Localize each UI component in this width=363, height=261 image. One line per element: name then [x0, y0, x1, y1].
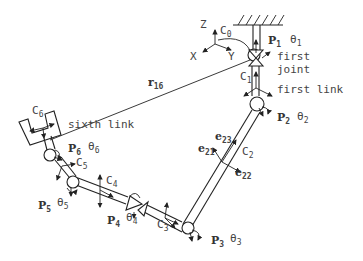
- theta5-label: θ5: [57, 196, 69, 211]
- axis-z-label: Z: [200, 18, 207, 31]
- c5-label: C5: [76, 156, 88, 171]
- e23-label: e23: [215, 130, 232, 145]
- c0-label: C0: [220, 24, 232, 39]
- r16-label: r16: [148, 76, 164, 91]
- c1-label: C1: [240, 70, 252, 85]
- sixth-joint: [44, 149, 62, 161]
- c2-label: C2: [242, 145, 254, 160]
- base-column: [253, 25, 260, 52]
- theta6-label: θ6: [88, 140, 100, 155]
- p1-label: P1: [268, 34, 281, 49]
- robot-arm-diagram: Z X Y C0 P1 θ1 first joint C1 first link…: [0, 0, 363, 261]
- labels: Z X Y C0 P1 θ1 first joint C1 first link…: [32, 18, 344, 249]
- theta4-label: θ4: [126, 211, 138, 226]
- sixth-link-label: sixth link: [68, 118, 135, 131]
- c6-label: C6: [32, 104, 44, 119]
- second-link: [183, 110, 260, 226]
- theta1-label: θ1: [290, 33, 302, 48]
- third-joint: [182, 222, 199, 241]
- p4-label: P4: [107, 214, 120, 229]
- theta2-label: θ2: [297, 110, 309, 125]
- p6-label: P6: [68, 142, 81, 157]
- ground-base: [233, 15, 284, 25]
- first-joint-label-1: first: [277, 50, 310, 63]
- theta3-label: θ3: [230, 232, 242, 247]
- e21-label: e21: [198, 142, 215, 157]
- first-joint-label-2: joint: [277, 63, 310, 76]
- fifth-joint: [67, 176, 79, 196]
- fourth-link: [76, 175, 128, 207]
- axis-y-label: Y: [228, 50, 235, 63]
- p3-label: P3: [211, 234, 224, 249]
- c4-label: C4: [106, 174, 118, 189]
- first-joint: [248, 40, 270, 66]
- p5-label: P5: [38, 199, 51, 214]
- first-link-label: first link: [277, 83, 344, 96]
- axis-x-label: X: [190, 50, 197, 63]
- e22-label: e22: [235, 166, 252, 181]
- p2-label: P2: [277, 111, 290, 126]
